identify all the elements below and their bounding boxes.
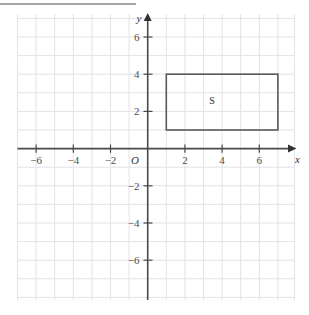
x-axis-label: x xyxy=(294,153,300,165)
y-axis-label: y xyxy=(136,12,142,24)
x-tick-label: 6 xyxy=(257,154,263,166)
y-tick-label: −6 xyxy=(128,254,140,266)
y-tick-label: −2 xyxy=(128,180,140,192)
x-tick-label: 2 xyxy=(182,154,188,166)
x-tick-label: 4 xyxy=(219,154,225,166)
shape-label-s: S xyxy=(209,95,215,106)
grid-lines-horizontal xyxy=(18,18,295,297)
y-tick-label: 6 xyxy=(134,31,140,43)
x-tick-labels: −6 −4 −2 2 4 6 xyxy=(30,154,262,166)
y-tick-label: −4 xyxy=(128,217,140,229)
x-tick-label: −4 xyxy=(67,154,79,166)
x-tick-label: −6 xyxy=(30,154,42,166)
x-axis xyxy=(18,145,297,153)
x-tick-label: −2 xyxy=(105,154,117,166)
y-tick-label: 4 xyxy=(134,68,140,80)
worksheet-page: −6 −4 −2 2 4 6 6 4 2 −2 −4 −6 O x y S xyxy=(0,0,309,315)
grid-lines-vertical xyxy=(18,14,295,300)
coordinate-grid-chart: −6 −4 −2 2 4 6 6 4 2 −2 −4 −6 O x y S xyxy=(0,0,309,315)
x-axis-arrowhead xyxy=(288,145,297,153)
y-axis-arrowhead xyxy=(144,13,152,21)
origin-label: O xyxy=(131,154,139,166)
y-tick-label: 2 xyxy=(134,105,140,117)
